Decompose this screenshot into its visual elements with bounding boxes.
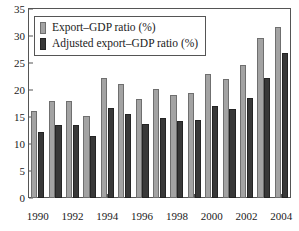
- bar: [205, 74, 211, 198]
- bar: [247, 98, 253, 198]
- bar: [142, 124, 148, 198]
- bar: [229, 109, 235, 198]
- x-axis-tick-label: 2000: [201, 211, 223, 222]
- y-axis-tick-label: 35: [14, 4, 29, 15]
- y-axis-tick-label: 0: [20, 193, 30, 204]
- y-axis-tick-mark: [29, 36, 33, 37]
- bar: [118, 84, 124, 198]
- bar: [212, 106, 218, 198]
- bar: [55, 125, 61, 198]
- y-axis-tick-label: 20: [14, 85, 29, 96]
- bar: [49, 101, 55, 198]
- y-axis-tick-mark: [29, 90, 33, 91]
- bar: [177, 121, 183, 198]
- bar: [195, 120, 201, 198]
- bar: [31, 111, 37, 198]
- y-axis-tick-label: 25: [14, 58, 29, 69]
- bar: [73, 125, 79, 198]
- y-axis-tick-label: 5: [20, 166, 30, 177]
- legend-item-label: Adjusted export–GDP ratio (%): [52, 38, 198, 50]
- bar: [38, 132, 44, 198]
- bar: [101, 78, 107, 198]
- bar: [153, 89, 159, 198]
- bar: [257, 38, 263, 198]
- bar: [125, 114, 131, 198]
- bar: [240, 65, 246, 198]
- bar: [160, 118, 166, 198]
- bar: [83, 116, 89, 198]
- y-axis-tick-mark: [29, 63, 33, 64]
- figure: 05101520253035 1990199219941996199820002…: [0, 0, 299, 231]
- x-axis-tick-label: 1998: [166, 211, 188, 222]
- x-axis-tick-label: 1990: [27, 211, 49, 222]
- bar: [264, 78, 270, 198]
- bar: [188, 93, 194, 198]
- bar: [282, 53, 288, 198]
- x-axis-tick-label: 2004: [270, 211, 292, 222]
- chart-legend: Export–GDP ratio (%)Adjusted export–GDP …: [34, 16, 206, 56]
- legend-swatch-icon: [40, 38, 46, 50]
- legend-swatch-icon: [40, 22, 46, 34]
- legend-item-label: Export–GDP ratio (%): [52, 22, 156, 34]
- bar: [66, 101, 72, 198]
- y-axis-tick-label: 15: [14, 112, 29, 123]
- bar: [136, 99, 142, 198]
- bar: [90, 136, 96, 198]
- legend-item: Export–GDP ratio (%): [40, 20, 198, 36]
- y-axis-tick-label: 30: [14, 31, 29, 42]
- bar: [275, 27, 281, 198]
- y-axis-tick-mark: [29, 9, 33, 10]
- bar: [170, 95, 176, 198]
- x-axis-tick-label: 2002: [236, 211, 258, 222]
- legend-item: Adjusted export–GDP ratio (%): [40, 36, 198, 52]
- y-axis-tick-label: 10: [14, 139, 29, 150]
- x-axis-tick-label: 1996: [131, 211, 153, 222]
- x-axis-tick-label: 1992: [62, 211, 84, 222]
- x-axis-tick-label: 1994: [96, 211, 118, 222]
- bar: [108, 108, 114, 198]
- bar: [223, 79, 229, 198]
